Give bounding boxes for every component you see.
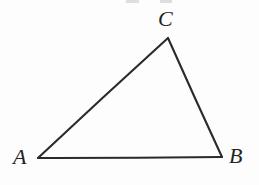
edge-bc bbox=[168, 38, 222, 157]
edge-ca bbox=[38, 38, 168, 158]
vertex-label-b: B bbox=[229, 145, 242, 167]
triangle-edges bbox=[38, 38, 222, 158]
triangle-drawing bbox=[0, 0, 259, 185]
vertex-label-a: A bbox=[13, 146, 26, 168]
triangle-figure: A B C bbox=[0, 0, 259, 185]
vertex-label-c: C bbox=[158, 8, 173, 30]
edge-ab bbox=[38, 157, 222, 158]
